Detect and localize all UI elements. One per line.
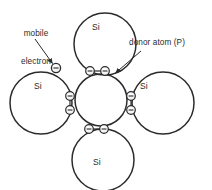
atom-label-si-bottom: Si (93, 158, 101, 168)
atom-label-si-top: Si (92, 23, 100, 33)
callout-line-donor-atom (116, 51, 142, 73)
electron (86, 67, 95, 76)
mobile-electron-label-line1: mobile (10, 29, 62, 38)
donor-atom-label: donor atom (P) (129, 38, 185, 47)
atom-circle-donor-center (75, 74, 127, 126)
atom-circle-si-bottom (72, 129, 134, 190)
electron (127, 106, 136, 115)
bond-pair-left (66, 92, 75, 115)
atom-circle-si-top (74, 13, 136, 75)
electron (100, 125, 109, 134)
electron (66, 92, 75, 101)
electron (66, 106, 75, 115)
bond-pair-right (127, 92, 136, 115)
electron (101, 67, 110, 76)
atom-label-si-right: Si (140, 82, 148, 92)
electron (85, 125, 94, 134)
electron (127, 92, 136, 101)
doping-diagram: mobile electron donor atom (P) Si Si Si … (0, 0, 212, 190)
mobile-electron-label: mobile electron (10, 10, 62, 85)
mobile-electron-label-line2: electron (10, 57, 62, 66)
atom-label-si-left: Si (34, 82, 42, 92)
